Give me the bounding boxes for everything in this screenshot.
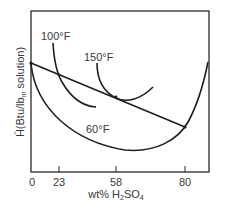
curve-60F bbox=[31, 62, 208, 150]
label-60F: 60°F bbox=[86, 123, 110, 135]
x-axis-label: wt% H2SO4 bbox=[87, 188, 144, 201]
x-tick-label-80: 80 bbox=[179, 176, 191, 188]
x-tick-label-0: 0 bbox=[29, 176, 35, 188]
point-80 bbox=[183, 125, 186, 128]
x-tick-label-58: 58 bbox=[110, 176, 122, 188]
label-100F: 100°F bbox=[41, 30, 71, 42]
enthalpy-concentration-chart: 100°F 150°F 60°F 0 23 58 80 wt% H2SO4 Ĥ(… bbox=[0, 0, 228, 211]
tie-line bbox=[31, 63, 185, 127]
point-0 bbox=[29, 61, 32, 64]
y-axis-label: Ĥ(Btu/lbm solution) bbox=[14, 47, 27, 137]
label-150F: 150°F bbox=[84, 51, 114, 63]
x-tick-label-23: 23 bbox=[53, 176, 65, 188]
